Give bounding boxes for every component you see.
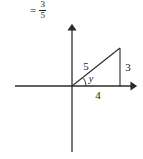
coordinate-diagram: 5 4 3 y (0, 0, 143, 159)
math-figure: = 3 5 5 4 3 y (0, 0, 143, 159)
hypotenuse-label: 5 (83, 60, 89, 72)
adjacent-label: 4 (95, 89, 101, 101)
angle-label: y (88, 73, 94, 84)
opposite-label: 3 (125, 61, 131, 73)
angle-arc (84, 78, 87, 86)
triangle-hypotenuse (72, 48, 120, 86)
